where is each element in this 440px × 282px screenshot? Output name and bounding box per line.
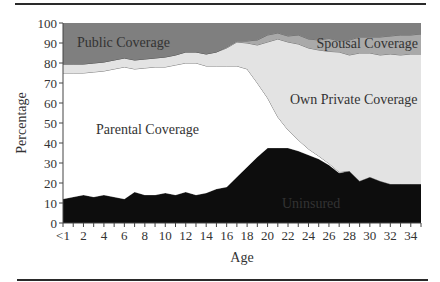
- x-tick-label: 22: [282, 228, 295, 243]
- stacked-area-chart: 0102030405060708090100 <1246810121416182…: [0, 0, 440, 282]
- x-tick-label: 12: [179, 228, 192, 243]
- x-tick-label: 24: [302, 228, 316, 243]
- x-tick-label: 30: [363, 228, 376, 243]
- label-parental-coverage: Parental Coverage: [96, 122, 199, 137]
- x-tick-label: 16: [220, 228, 234, 243]
- label-public-coverage: Public Coverage: [77, 35, 170, 50]
- x-axis-title: Age: [230, 250, 253, 265]
- x-tick-labels: <1246810121416182022242628303234: [56, 228, 418, 243]
- y-tick-label: 90: [44, 36, 57, 51]
- y-tick-label: 20: [44, 176, 57, 191]
- y-tick-label: 80: [44, 56, 57, 71]
- y-tick-label: 100: [38, 16, 58, 31]
- x-tick-label: 18: [241, 228, 254, 243]
- x-tick-label: <1: [56, 228, 70, 243]
- x-tick-label: 14: [200, 228, 214, 243]
- label-spousal-coverage: Spousal Coverage: [317, 36, 418, 51]
- label-own-private-coverage: Own Private Coverage: [290, 92, 418, 107]
- x-tick-label: 10: [159, 228, 172, 243]
- x-tick-label: 4: [101, 228, 108, 243]
- y-axis-title: Percentage: [14, 92, 29, 153]
- x-tick-label: 20: [261, 228, 274, 243]
- y-tick-labels: 0102030405060708090100: [38, 16, 58, 231]
- x-tick-label: 34: [404, 228, 418, 243]
- x-tick-label: 8: [142, 228, 149, 243]
- label-uninsured: Uninsured: [282, 196, 340, 211]
- y-tick-label: 10: [44, 196, 57, 211]
- y-tick-label: 40: [44, 136, 57, 151]
- x-tick-label: 32: [384, 228, 397, 243]
- x-tick-label: 28: [343, 228, 356, 243]
- y-tick-label: 50: [44, 116, 57, 131]
- y-tick-label: 70: [44, 76, 57, 91]
- x-tick-label: 2: [80, 228, 87, 243]
- y-tick-label: 60: [44, 96, 57, 111]
- x-tick-label: 26: [322, 228, 336, 243]
- y-tick-label: 30: [44, 156, 57, 171]
- x-tick-label: 6: [121, 228, 128, 243]
